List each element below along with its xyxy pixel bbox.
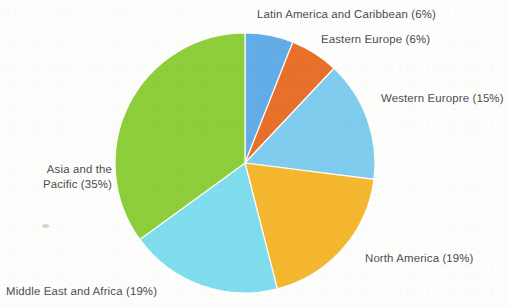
slice-label-asia-and-the-pacific-line-1: Asia and the <box>47 164 112 176</box>
slice-label-eastern-europe: Eastern Europe (6%) <box>321 33 430 48</box>
pie-chart-figure: Latin America and Caribbean (6%) Eastern… <box>0 0 509 307</box>
slice-label-western-europe: Western Europre (15%) <box>381 92 504 107</box>
pie-slice-group <box>115 33 375 293</box>
slice-label-asia-and-the-pacific: Asia and the Pacific (35%) <box>14 163 112 192</box>
slice-label-north-america: North America (19%) <box>365 252 474 267</box>
slice-label-latin-america-and-caribbean: Latin America and Caribbean (6%) <box>257 8 436 23</box>
slice-label-middle-east-and-africa: Middle East and Africa (19%) <box>6 285 157 300</box>
slice-label-asia-and-the-pacific-line-2: Pacific (35%) <box>43 179 112 191</box>
